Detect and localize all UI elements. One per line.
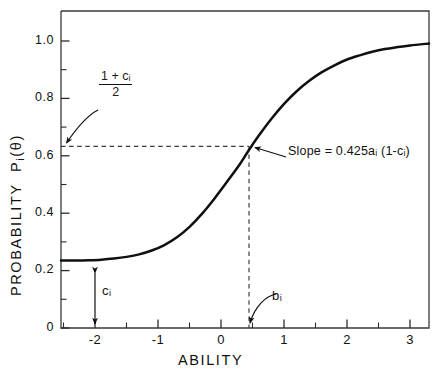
- y-axis-title-subscript: i: [14, 157, 26, 161]
- y-tick-label-1: 1.0: [18, 33, 54, 47]
- x-tick-label-6: 3: [396, 332, 424, 347]
- y-axis-minor-ticks: [61, 70, 67, 300]
- axes-frame: [61, 11, 429, 328]
- x-axis-title: ABILITY: [178, 352, 243, 368]
- x-tick-label-3: 0: [207, 332, 235, 347]
- y-axis-title-symbol: P: [8, 161, 24, 172]
- slope-annotation-leader: [255, 148, 286, 158]
- y-tick-label-6: 0: [18, 320, 54, 334]
- y-tick-label-2: 0.8: [18, 90, 54, 104]
- item-characteristic-curve-figure: 1.0 0.8 0.6 0.4 0.2 0 -2 -1 0 1 2 3 PROB…: [0, 0, 440, 380]
- midpoint-annotation: 1 + cᵢ 2: [99, 70, 132, 99]
- y-axis-title: PROBABILITY Pi(θ): [8, 134, 26, 296]
- slope-annotation: Slope = 0.425aᵢ (1-cᵢ): [288, 144, 410, 158]
- x-tick-label-5: 2: [333, 332, 361, 347]
- x-tick-label-4: 1: [270, 332, 298, 347]
- difficulty-annotation: bᵢ: [272, 288, 282, 303]
- plot-canvas: [0, 0, 440, 380]
- y-axis-title-word: PROBABILITY: [8, 183, 24, 296]
- guessing-annotation: cᵢ: [102, 283, 112, 298]
- guide-lines: [61, 146, 249, 328]
- x-tick-label-2: -1: [144, 332, 172, 347]
- y-axis-title-argument: (θ): [8, 134, 24, 157]
- x-tick-label-1: -2: [81, 332, 109, 347]
- midpoint-annotation-denominator: 2: [99, 85, 132, 99]
- midpoint-annotation-arrow: [67, 110, 99, 143]
- midpoint-annotation-numerator: 1 + cᵢ: [99, 70, 132, 85]
